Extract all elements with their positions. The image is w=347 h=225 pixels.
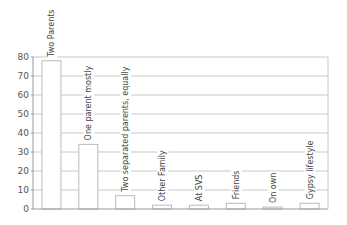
category-label: Two separated parents, equally	[121, 66, 130, 192]
category-label: Two Parents	[47, 9, 56, 57]
gridlines	[33, 57, 328, 209]
category-label: One parent mostly	[84, 66, 93, 141]
y-tick-label: 0	[23, 204, 29, 214]
category-label: On own	[269, 173, 278, 203]
y-tick-label: 20	[18, 166, 30, 176]
bar	[300, 203, 319, 209]
y-tick-label: 50	[18, 109, 30, 119]
bar-chart: 01020304050607080 Two ParentsOne parent …	[0, 0, 347, 225]
y-tick-label: 80	[18, 52, 30, 62]
y-tick-label: 10	[18, 185, 30, 195]
bar	[226, 203, 245, 209]
bar	[79, 144, 98, 209]
y-axis-ticks: 01020304050607080	[18, 52, 33, 214]
bar	[189, 205, 208, 209]
category-label: At SVS	[195, 175, 204, 202]
bar	[153, 205, 172, 209]
bar	[42, 61, 61, 209]
y-tick-label: 60	[18, 90, 30, 100]
y-tick-label: 40	[18, 128, 30, 138]
y-tick-label: 70	[18, 71, 30, 81]
y-tick-label: 30	[18, 147, 30, 157]
category-label: Friends	[232, 171, 241, 200]
category-label: Gypsy lifestyle	[306, 140, 315, 199]
bar	[116, 196, 135, 209]
category-label: Other Family	[158, 150, 167, 201]
